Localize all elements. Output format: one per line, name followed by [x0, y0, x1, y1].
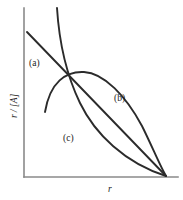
curve-c: [57, 8, 166, 176]
y-axis-label: r / [A]: [9, 93, 19, 118]
curve-label-b: (b): [114, 93, 125, 104]
curve-label-a: (a): [29, 58, 40, 69]
curve-a: [27, 32, 166, 176]
plot-area: (a) (b) (c) r / [A] r: [0, 0, 183, 200]
curve-label-c: (c): [63, 133, 74, 144]
curve-b: [45, 72, 166, 176]
figure-container: (a) (b) (c) r / [A] r: [0, 0, 183, 200]
x-axis-label: r: [108, 184, 112, 194]
